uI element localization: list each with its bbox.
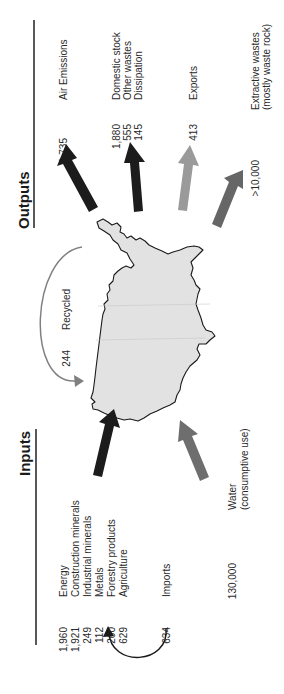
other-wastes-value: 555 bbox=[122, 124, 133, 141]
water-sublabel: (consumptive use) bbox=[239, 428, 250, 510]
recycled-loop: 244 Recycled bbox=[40, 247, 84, 387]
outputs-header: Outputs bbox=[15, 20, 34, 229]
metals-value: 112 bbox=[94, 627, 105, 643]
air-emissions-label: Air Emissions bbox=[58, 39, 69, 100]
agriculture-value: 629 bbox=[118, 627, 129, 644]
output-domestic-group: 1,880 Domestic stock 555 Other wastes 14… bbox=[111, 31, 144, 149]
imports-label: Imports bbox=[161, 564, 172, 597]
domestic-stock-label: Domestic stock bbox=[111, 31, 122, 100]
output-extractive-wastes: >10,000 Extractive wastes (mostly waste … bbox=[250, 24, 272, 197]
domestic-arrow-icon bbox=[124, 142, 145, 212]
input-materials-list: 1,960 Energy 1,921 Construction minerals… bbox=[58, 500, 129, 652]
inputs-header: Inputs bbox=[16, 429, 36, 645]
input-water: 130,000 Water (consumptive use) bbox=[227, 428, 250, 599]
energy-label: Energy bbox=[58, 565, 69, 597]
recycled-arrowhead-icon bbox=[74, 375, 84, 387]
outputs-heading: Outputs bbox=[15, 172, 32, 230]
extractive-wastes-value: >10,000 bbox=[250, 160, 261, 197]
extractive-wastes-label: Extractive wastes bbox=[250, 32, 261, 110]
water-value: 130,000 bbox=[227, 563, 238, 600]
output-air-emissions: 1,735 Air Emissions bbox=[58, 39, 69, 163]
dissipation-value: 145 bbox=[133, 124, 144, 141]
agriculture-label: Agriculture bbox=[118, 549, 129, 597]
construction-minerals-label: Construction minerals bbox=[70, 500, 81, 597]
domestic-stock-value: 1,880 bbox=[111, 124, 122, 149]
extractive-wastes-arrow-icon bbox=[212, 170, 243, 228]
materials-input-arrow-icon bbox=[93, 409, 120, 477]
air-emissions-arrow-icon bbox=[57, 144, 98, 212]
energy-value: 1,960 bbox=[58, 627, 69, 652]
water-input-arrow-icon bbox=[178, 420, 209, 481]
exports-label: Exports bbox=[188, 66, 199, 100]
output-exports: 413 Exports bbox=[188, 66, 199, 141]
forestry-products-label: Forestry products bbox=[106, 519, 117, 597]
other-wastes-label: Other wastes bbox=[122, 41, 133, 100]
inputs-heading: Inputs bbox=[16, 431, 33, 476]
exports-arrow-icon bbox=[178, 145, 199, 211]
water-label: Water bbox=[227, 483, 238, 510]
material-flow-diagram: Outputs 1,735 Air Emissions 1,880 Domest… bbox=[0, 0, 284, 694]
recycled-value: 244 bbox=[61, 350, 72, 367]
construction-minerals-value: 1,921 bbox=[70, 627, 81, 652]
industrial-minerals-label: Industrial minerals bbox=[82, 516, 93, 597]
extractive-wastes-sublabel: (mostly waste rock) bbox=[261, 24, 272, 110]
industrial-minerals-value: 249 bbox=[82, 627, 93, 644]
recycled-label: Recycled bbox=[61, 289, 72, 330]
metals-label: Metals bbox=[94, 568, 105, 597]
us-map bbox=[91, 219, 215, 421]
dissipation-label: Dissipation bbox=[133, 51, 144, 100]
exports-value: 413 bbox=[188, 124, 199, 141]
